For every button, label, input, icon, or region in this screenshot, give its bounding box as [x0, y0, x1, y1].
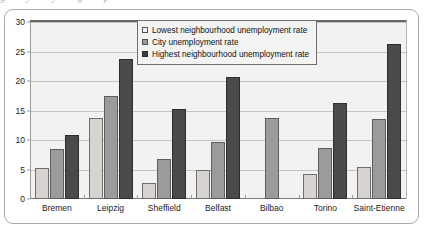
bar[interactable]: [142, 183, 156, 199]
y-axis-tick-label: 0: [20, 194, 25, 204]
x-axis-tick-label: Sheffield: [148, 203, 181, 213]
bar[interactable]: [35, 168, 49, 199]
bar-group: [352, 22, 406, 199]
bar-group: [30, 22, 84, 199]
bar[interactable]: [89, 118, 103, 199]
bar-group-bars: [84, 22, 138, 199]
bar[interactable]: [303, 174, 317, 199]
bar-group: [84, 22, 138, 199]
legend-item-label: City unemployment rate: [152, 38, 238, 47]
bar[interactable]: [387, 44, 401, 199]
legend-item-label: Lowest neighbourhood unemployment rate: [152, 26, 307, 35]
x-axis-tick-mark: [352, 195, 353, 199]
x-axis-tick-mark: [299, 195, 300, 199]
x-axis-tick-label: Torino: [314, 203, 337, 213]
x-axis-tick-label: Saint-Etienne: [354, 203, 405, 213]
y-axis-tick-label: 10: [16, 135, 25, 145]
chart-legend: Lowest neighbourhood unemployment rate C…: [137, 20, 317, 65]
y-axis-tick-label: 20: [16, 76, 25, 86]
x-axis-tick-label: Belfast: [205, 203, 231, 213]
bar[interactable]: [65, 135, 79, 199]
legend-swatch-icon: [142, 39, 148, 45]
bar[interactable]: [265, 118, 279, 199]
legend-swatch-icon: [142, 51, 148, 57]
bar[interactable]: [372, 119, 386, 199]
bar[interactable]: [104, 96, 118, 199]
y-axis-tick-label: 5: [20, 165, 25, 175]
bar[interactable]: [318, 148, 332, 199]
x-axis-tick-mark: [245, 195, 246, 199]
bar[interactable]: [157, 159, 171, 199]
bar-chart: 051015202530 BremenLeipzigSheffieldBelfa…: [0, 0, 425, 232]
y-axis-tick-label: 30: [16, 17, 25, 27]
y-axis-tick-label: 15: [16, 106, 25, 116]
bar-group-bars: [30, 22, 84, 199]
x-axis-tick-mark: [137, 195, 138, 199]
legend-item: Lowest neighbourhood unemployment rate: [142, 24, 309, 36]
x-axis-tick-label: Bilbao: [260, 203, 284, 213]
bar[interactable]: [226, 77, 240, 199]
bar[interactable]: [196, 170, 210, 199]
y-axis-tick-label: 25: [16, 47, 25, 57]
bar[interactable]: [333, 103, 347, 199]
bar[interactable]: [357, 167, 371, 199]
bar[interactable]: [211, 142, 225, 199]
x-axis-tick-mark: [191, 195, 192, 199]
legend-item: City unemployment rate: [142, 36, 309, 48]
bar[interactable]: [172, 109, 186, 199]
legend-swatch-icon: [142, 27, 148, 33]
bar[interactable]: [119, 59, 133, 199]
x-axis-tick-label: Bremen: [42, 203, 72, 213]
bar[interactable]: [50, 149, 64, 199]
legend-item-label: Highest neighbourhood unemployment rate: [152, 50, 309, 59]
x-axis-tick-label: Leipzig: [97, 203, 124, 213]
legend-item: Highest neighbourhood unemployment rate: [142, 48, 309, 60]
x-axis-tick-mark: [84, 195, 85, 199]
bar-group-bars: [352, 22, 406, 199]
